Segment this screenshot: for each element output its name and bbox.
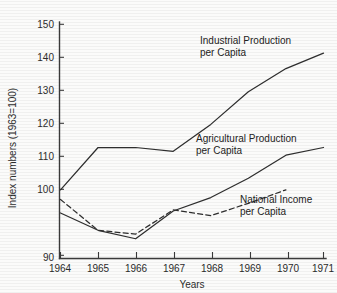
annotation-national-income-line1: National Income: [240, 194, 313, 205]
annotation-agricultural-line1: Agricultural Production: [196, 133, 297, 144]
x-axis-title: Years: [179, 279, 204, 290]
y-tick-label-150: 150: [37, 19, 54, 30]
y-tick-label-90: 90: [43, 252, 55, 263]
annotation-agricultural-line2: per Capita: [196, 145, 243, 156]
annotation-industrial-line2: per Capita: [200, 47, 247, 58]
y-tick-label-100: 100: [37, 184, 54, 195]
x-tick-label-1965: 1965: [87, 263, 110, 274]
line-chart-canvas: Index numbers (1963=100) 150 140 130 120…: [0, 0, 337, 293]
y-axis-title: Index numbers (1963=100): [7, 88, 18, 208]
x-tick-label-1966: 1966: [125, 263, 148, 274]
annotation-national-income-line2: per Capita: [240, 206, 287, 217]
y-tick-label-120: 120: [37, 118, 54, 129]
x-tick-label-1970: 1970: [277, 263, 300, 274]
y-tick-label-130: 130: [37, 85, 54, 96]
annotation-industrial-line1: Industrial Production: [200, 35, 291, 46]
x-tick-label-1969: 1969: [239, 263, 262, 274]
y-tick-label-140: 140: [37, 52, 54, 63]
x-tick-label-1967: 1967: [163, 263, 186, 274]
y-tick-label-110: 110: [38, 151, 54, 162]
series-line-industrial-production: [61, 53, 324, 190]
x-tick-label-1968: 1968: [201, 263, 224, 274]
x-tick-label-1971: 1971: [312, 263, 335, 274]
x-tick-label-1964: 1964: [49, 263, 72, 274]
chart-figure: Index numbers (1963=100) 150 140 130 120…: [0, 0, 337, 293]
